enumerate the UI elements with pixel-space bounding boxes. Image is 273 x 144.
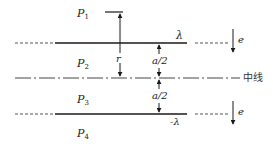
- diagram-canvas: [0, 0, 273, 144]
- region-label-p1: P1: [77, 8, 89, 21]
- boundary-diagram: P1 P2 P3 P4 λ -λ 中线 r a/2 a/2 e e: [0, 0, 273, 144]
- p1-subscript: 1: [84, 13, 88, 21]
- region-label-p4: P4: [77, 128, 89, 141]
- p4-subscript: 4: [84, 133, 88, 141]
- center-line-label: 中线: [243, 73, 263, 83]
- e-upper-label: e: [238, 35, 244, 45]
- p3-subscript: 3: [84, 99, 88, 107]
- a-half-upper-label: a/2: [152, 56, 168, 66]
- p2-subscript: 2: [84, 63, 88, 71]
- lambda-label: λ: [176, 30, 183, 41]
- e-lower-label: e: [238, 107, 244, 117]
- region-label-p3: P3: [77, 94, 89, 107]
- a-half-lower-label: a/2: [152, 91, 168, 101]
- r-label: r: [116, 54, 121, 64]
- region-label-p2: P2: [77, 58, 89, 71]
- neg-lambda-label: -λ: [170, 117, 180, 127]
